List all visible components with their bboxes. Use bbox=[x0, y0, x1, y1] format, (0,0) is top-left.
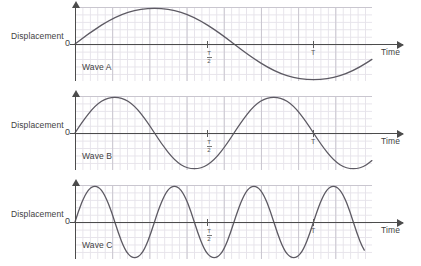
tick-label-half-period: T 2 bbox=[204, 50, 214, 64]
fraction-numerator: T bbox=[204, 50, 214, 56]
wave-panel-c: T 2 T Displacement 0 Time Wave C bbox=[0, 178, 421, 266]
tick-label-full-period: T bbox=[311, 138, 315, 145]
y-axis-label: Displacement bbox=[11, 31, 64, 41]
x-axis-label: Time bbox=[381, 136, 400, 146]
x-axis-label: Time bbox=[381, 47, 400, 57]
wave-label-c: Wave C bbox=[82, 240, 113, 250]
origin-label: 0 bbox=[65, 127, 70, 137]
wave-panel-b: T 2 T Displacement 0 Time Wave B bbox=[0, 89, 421, 177]
tick-label-half-period: T 2 bbox=[204, 228, 214, 242]
fraction-denominator: 2 bbox=[204, 58, 214, 64]
tick-half-period bbox=[207, 41, 208, 48]
fraction-numerator: T bbox=[204, 139, 214, 145]
origin-label: 0 bbox=[65, 216, 70, 226]
fraction-denominator: 2 bbox=[204, 236, 214, 242]
tick-full-period bbox=[313, 41, 314, 48]
time-axis bbox=[70, 222, 403, 223]
tick-full-period bbox=[313, 130, 314, 137]
y-axis-label: Displacement bbox=[11, 209, 64, 219]
x-axis-label: Time bbox=[381, 225, 400, 235]
displacement-axis bbox=[75, 97, 76, 170]
time-axis bbox=[70, 133, 403, 134]
tick-full-period bbox=[313, 219, 314, 226]
tick-label-full-period: T bbox=[311, 49, 315, 56]
wave-panel-a: T 2 T Displacement 0 Time Wave A bbox=[0, 0, 421, 88]
fraction-denominator: 2 bbox=[204, 147, 214, 153]
tick-half-period bbox=[207, 219, 208, 226]
tick-label-half-period: T 2 bbox=[204, 139, 214, 153]
y-axis-label: Displacement bbox=[11, 120, 64, 130]
tick-label-full-period: T bbox=[311, 227, 315, 234]
origin-label: 0 bbox=[65, 38, 70, 48]
wave-label-a: Wave A bbox=[82, 62, 112, 72]
time-axis bbox=[70, 44, 403, 45]
displacement-axis bbox=[75, 186, 76, 259]
displacement-axis bbox=[75, 8, 76, 81]
fraction-numerator: T bbox=[204, 228, 214, 234]
tick-half-period bbox=[207, 130, 208, 137]
wave-label-b: Wave B bbox=[82, 151, 112, 161]
